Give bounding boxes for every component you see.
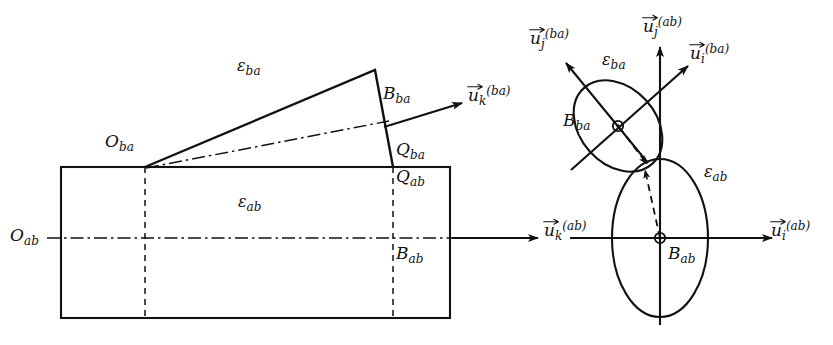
body-ba-wedge [145, 70, 393, 167]
label-Q-ba: Qba [396, 141, 425, 161]
wedge-centerline [146, 121, 389, 168]
label-eps-ba-left: εba [237, 58, 261, 77]
figure-root: Oba Oab Bba Qba Qab Bab εba εab uk(ba) u… [0, 0, 833, 345]
body-ab-rectangle [61, 167, 450, 318]
label-u-j-ba: uj(ba) [530, 28, 569, 50]
label-u-k-ab-left: uk(ab) [544, 220, 587, 242]
label-u-i-ba: ui(ba) [690, 43, 729, 65]
contact-position-dashed-vector [645, 170, 660, 238]
vector-u-k-ba-arrow [384, 103, 462, 127]
label-u-k-ba: uk(ba) [468, 85, 511, 107]
label-B-ba-left: Bba [383, 85, 411, 105]
label-B-ab-left: Bab [396, 245, 424, 265]
label-O-ba: Oba [105, 133, 134, 153]
label-Q-ab: Qab [396, 168, 425, 188]
label-B-ab-right: Bab [668, 245, 696, 265]
label-eps-ab-left: εab [238, 194, 262, 213]
label-u-j-ab: uj(ab) [643, 16, 682, 38]
label-eps-ba-right: εba [602, 52, 626, 71]
label-B-ba-right: Bba [563, 112, 591, 132]
label-O-ab: Oab [10, 227, 39, 247]
label-u-i-ab: ui(ab) [771, 220, 810, 242]
label-eps-ab-right: εab [704, 164, 728, 183]
